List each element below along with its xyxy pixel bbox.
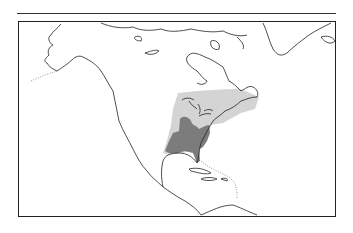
- aleutian-islands: [31, 71, 57, 81]
- coastline-arctic-islands: [101, 23, 335, 54]
- coastline-greenland: [263, 23, 331, 55]
- map-svg: [19, 22, 336, 217]
- map-frame: [18, 21, 336, 217]
- coastline-caribbean: [189, 168, 228, 181]
- top-rule: [17, 13, 336, 14]
